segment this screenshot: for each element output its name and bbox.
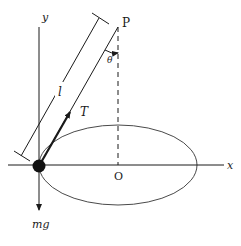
conical-pendulum-diagram: x y mg T l θ P O (0, 0, 241, 246)
weight-label: mg (32, 218, 49, 231)
x-axis-label: x (227, 159, 234, 172)
angle-arc (105, 50, 118, 53)
length-label: l (58, 85, 62, 99)
length-tick-bottom (14, 151, 30, 161)
pivot-label: P (122, 16, 130, 30)
angle-label: θ (107, 55, 113, 65)
tension-vector (39, 112, 70, 166)
length-tick-top (92, 13, 109, 24)
pendulum-bob (33, 160, 46, 173)
origin-label: O (114, 170, 123, 183)
y-axis-label: y (41, 11, 49, 24)
tension-label: T (80, 105, 89, 119)
